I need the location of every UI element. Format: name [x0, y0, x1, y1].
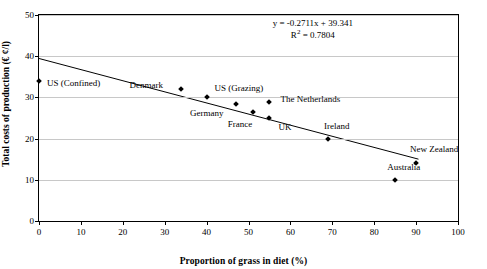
x-axis-title: Proportion of grass in diet (%): [0, 256, 487, 266]
data-point-label: Denmark: [129, 80, 163, 90]
x-axis-tick: [249, 221, 250, 225]
x-axis-tick-label: 40: [202, 227, 211, 237]
x-axis-tick-label: 0: [37, 227, 42, 237]
data-point-marker: [267, 99, 273, 105]
y-axis-title-text: Total costs of production (€ ¢/l): [1, 41, 11, 167]
x-axis-tick-label: 70: [328, 227, 337, 237]
data-point-marker: [233, 101, 239, 107]
data-point-marker: [36, 78, 42, 84]
data-point-label: Germany: [190, 108, 224, 118]
y-axis-tick: [35, 15, 39, 16]
data-point-marker: [325, 136, 331, 142]
data-point-marker: [204, 95, 210, 101]
gridline: [39, 139, 458, 140]
data-point-label: UK: [278, 122, 291, 132]
x-axis-tick: [458, 221, 459, 225]
y-axis-title: Total costs of production (€ ¢/l): [0, 0, 13, 208]
x-axis-tick: [81, 221, 82, 225]
data-point-marker: [250, 109, 256, 115]
x-axis-tick-label: 90: [412, 227, 421, 237]
gridline: [39, 97, 458, 98]
x-axis-tick-label: 50: [244, 227, 253, 237]
gridline: [39, 56, 458, 57]
x-axis-tick-label: 20: [118, 227, 127, 237]
y-axis-tick-label: 40: [24, 51, 34, 61]
regression-equation: y = -0.2711x + 39.341: [273, 18, 353, 28]
x-axis-tick: [123, 221, 124, 225]
data-point-label: US (Grazing): [215, 83, 264, 93]
data-point-label: US (Confined): [47, 78, 100, 88]
data-point-label: The Netherlands: [280, 94, 340, 104]
y-axis-tick: [35, 180, 39, 181]
x-axis-tick-label: 80: [370, 227, 379, 237]
y-axis-tick-label: 50: [24, 10, 34, 20]
y-axis-tick: [35, 56, 39, 57]
x-axis-tick: [165, 221, 166, 225]
data-point-label: New Zealand: [410, 144, 458, 154]
x-axis-tick: [374, 221, 375, 225]
x-axis-tick-label: 100: [451, 227, 465, 237]
scatter-chart: Total costs of production (€ ¢/l) Propor…: [0, 0, 487, 269]
y-axis-tick-label: 20: [24, 134, 34, 144]
y-axis-tick-label: 0: [24, 216, 34, 226]
x-axis-tick-label: 60: [286, 227, 295, 237]
data-point-marker: [179, 86, 185, 92]
data-point-label: Ireland: [324, 121, 349, 131]
r-squared-value: = 0.7804: [300, 30, 334, 40]
gridline: [39, 15, 458, 16]
y-axis-tick-label: 10: [24, 175, 34, 185]
data-point-marker: [392, 177, 398, 183]
r-squared: R2 = 0.7804: [273, 28, 353, 40]
x-axis-tick-label: 10: [76, 227, 85, 237]
x-axis-tick: [290, 221, 291, 225]
x-axis-tick: [416, 221, 417, 225]
x-axis-tick: [39, 221, 40, 225]
x-axis-tick-label: 30: [160, 227, 169, 237]
y-axis-tick: [35, 139, 39, 140]
regression-annotation: y = -0.2711x + 39.341 R2 = 0.7804: [273, 18, 353, 40]
x-axis-tick: [207, 221, 208, 225]
y-axis-tick-label: 30: [24, 92, 34, 102]
data-point-label: France: [228, 119, 253, 129]
x-axis-tick: [332, 221, 333, 225]
data-point-marker: [267, 115, 273, 121]
data-point-label: Australia: [387, 162, 420, 172]
y-axis-tick: [35, 97, 39, 98]
